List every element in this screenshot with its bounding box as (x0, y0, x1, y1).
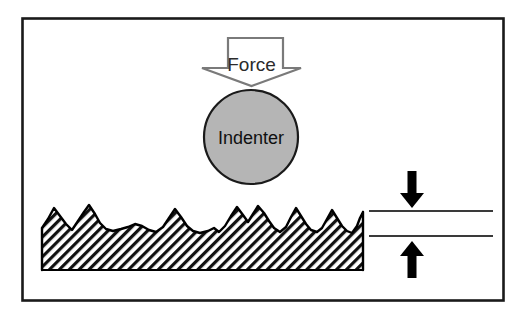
diagram-canvas: Force Indenter (0, 0, 524, 316)
indenter-label: Indenter (218, 128, 284, 148)
indenter-group: Indenter (204, 90, 298, 184)
up-arrow-shaft (408, 254, 417, 278)
force-label: Force (227, 54, 276, 75)
down-arrow-shaft (408, 171, 417, 195)
indentation-diagram: Force Indenter (0, 0, 524, 316)
